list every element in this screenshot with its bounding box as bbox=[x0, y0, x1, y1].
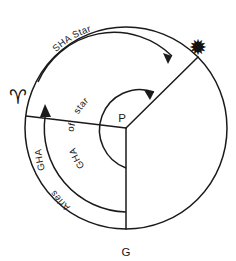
arrow-gha-aries bbox=[40, 104, 51, 117]
diagram-canvas: SHA Star Aries GHA GHA of star bbox=[0, 0, 236, 261]
arc-label-gha-of-star-prefix: GHA bbox=[66, 146, 86, 171]
point-label-greenwich: G bbox=[122, 246, 131, 258]
radius-pole-to-star bbox=[126, 57, 198, 128]
arc-gha-of-star bbox=[100, 90, 154, 168]
star-glyph-icon: ✹ bbox=[189, 35, 207, 60]
arc-label-gha-of-star-noun: star bbox=[71, 95, 91, 116]
aries-glyph-icon: ♈ bbox=[9, 85, 27, 109]
celestial-hour-angle-diagram: SHA Star Aries GHA GHA of star bbox=[0, 0, 236, 261]
arc-label-gha-aries-prefix: GHA bbox=[32, 148, 47, 172]
point-label-pole: P bbox=[118, 112, 126, 124]
arc-label-sha: SHA Star bbox=[50, 23, 92, 54]
arc-label-gha-of-star-of: of bbox=[65, 122, 77, 133]
arc-label-gha-aries: Aries bbox=[48, 188, 72, 213]
